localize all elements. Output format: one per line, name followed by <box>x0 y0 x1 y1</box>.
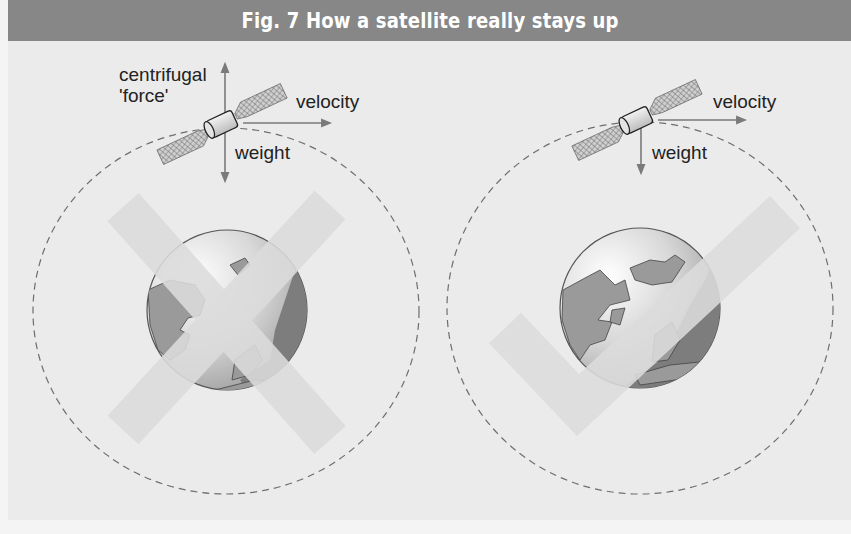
correct-panel <box>447 80 833 494</box>
label-weight-left: weight <box>235 143 290 163</box>
label-velocity-left: velocity <box>296 92 359 112</box>
incorrect-panel <box>33 64 419 494</box>
label-velocity-right: velocity <box>713 92 776 112</box>
label-centrifugal: centrifugal <box>119 65 207 85</box>
label-force: 'force' <box>119 86 169 106</box>
label-weight-right: weight <box>652 143 707 163</box>
